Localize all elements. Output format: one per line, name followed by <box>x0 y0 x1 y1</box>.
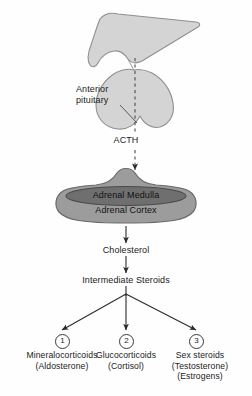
adrenal-pathway-figure: Anterior pituitary ACTH Adrenal Medulla … <box>0 0 252 396</box>
anterior-pituitary-label: Anterior pituitary <box>76 84 136 106</box>
intermediate-steroids-label: Intermediate Steroids <box>56 275 196 286</box>
adrenal-cortex-label: Adrenal Cortex <box>56 205 196 216</box>
hypothalamus-shape <box>88 13 200 67</box>
product-name-3: Sex steroids <box>148 350 252 361</box>
arrow-branch-mineralocorticoids <box>62 294 126 330</box>
product-example-3-0: (Testosterone) <box>148 361 252 372</box>
product-number-3: 3 <box>189 334 204 349</box>
product-label-sex-steroids: Sex steroids (Testosterone) (Estrogens) <box>148 350 252 382</box>
adrenal-medulla-label: Adrenal Medulla <box>56 190 196 201</box>
product-number-1: 1 <box>55 334 70 349</box>
product-number-2: 2 <box>119 334 134 349</box>
anterior-pituitary-label-line2: pituitary <box>76 95 136 106</box>
product-example-3-1: (Estrogens) <box>148 371 252 382</box>
anterior-pituitary-label-line1: Anterior <box>76 84 136 95</box>
cholesterol-label: Cholesterol <box>76 245 176 256</box>
arrow-branch-sex-steroids <box>126 294 196 330</box>
acth-label: ACTH <box>96 135 156 146</box>
